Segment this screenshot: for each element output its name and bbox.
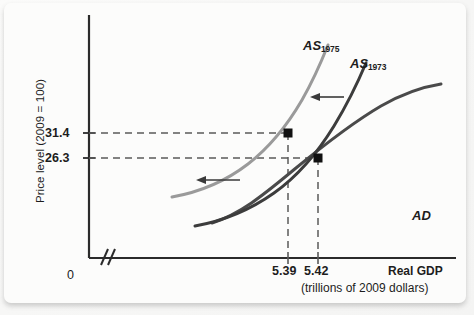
curve-as-1975	[172, 45, 328, 197]
equilibrium-marker-1973	[314, 154, 323, 163]
origin-label: 0	[67, 268, 74, 282]
curve-label-as-1975: AS1975	[303, 38, 339, 53]
curve-label-as-1975-subscript: 1975	[321, 44, 339, 54]
curve-label-as-1973: AS1973	[350, 56, 386, 71]
shift-arrow-upper	[310, 93, 344, 101]
curve-label-as-1973-subscript: 1973	[368, 62, 386, 72]
x-tick-label-539: 5.39	[272, 264, 296, 278]
x-axis-label-units: (trillions of 2009 dollars)	[301, 281, 428, 295]
curve-label-ad-text: AD	[412, 208, 431, 223]
curve-ad	[212, 84, 441, 223]
x-tick-label-542: 5.42	[304, 264, 328, 278]
curve-as-1973	[195, 63, 366, 226]
y-axis-label-text: Price level (2009 = 100)	[34, 79, 46, 203]
y-tick-label-263: 26.3	[45, 151, 69, 165]
curve-label-ad: AD	[412, 208, 431, 223]
x-axis-label: Real GDP	[388, 264, 443, 278]
y-tick-label-314: 31.4	[45, 126, 69, 140]
figure-card: Price level (2009 = 100) 31.4 26.3 0 5.3…	[0, 0, 474, 315]
curve-label-as-1975-text: AS	[303, 38, 321, 53]
equilibrium-marker-1975	[284, 129, 293, 138]
y-axis-label: Price level (2009 = 100)	[30, 56, 50, 226]
curve-label-as-1973-text: AS	[350, 56, 368, 71]
